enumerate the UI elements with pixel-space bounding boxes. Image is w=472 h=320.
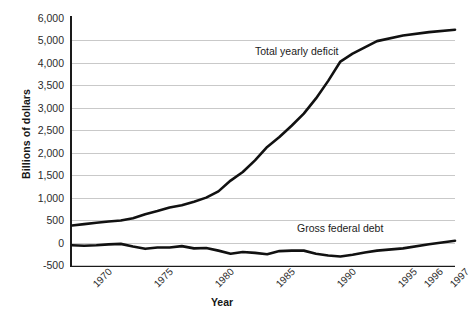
x-axis-tick-label: 1975 (152, 266, 176, 290)
series-line-total-yearly-deficit (72, 30, 455, 226)
y-axis-tick-labels: 6,0005,0004,0003,5003,0002,5002,0001,500… (6, 0, 64, 320)
x-axis-tick-label: 1995 (396, 266, 420, 290)
x-axis-tick-label: 1970 (91, 266, 115, 290)
series-label-total-yearly-deficit: Total yearly deficit (255, 45, 338, 57)
x-axis-title: Year (0, 296, 472, 308)
x-axis-tick-label: 1985 (274, 266, 298, 290)
x-axis-tick-label: 1990 (335, 266, 359, 290)
x-axis-tick-labels: 197019751980198519901995199619971998 (72, 266, 472, 320)
y-axis-tick-label: 3,500 (6, 79, 64, 91)
x-axis-title-text: Year (211, 296, 233, 308)
y-axis-tick-label: 500 (6, 214, 64, 226)
series-line-gross-federal-debt (72, 241, 455, 257)
y-axis-tick-label: 5,000 (6, 34, 64, 46)
y-axis-tick-label: 6,000 (6, 12, 64, 24)
x-axis-tick-label: 1980 (213, 266, 237, 290)
y-axis-tick-label: 3,000 (6, 102, 64, 114)
y-axis-tick-label: 2,000 (6, 147, 64, 159)
y-axis-tick-label: 0 (6, 237, 64, 249)
y-axis-tick-label: 1,000 (6, 192, 64, 204)
y-axis-tick-label: 2,500 (6, 124, 64, 136)
series-label-gross-federal-debt: Gross federal debt (297, 222, 383, 234)
chart-container: Billions of dollars 6,0005,0004,0003,500… (0, 0, 472, 320)
x-axis-tick-label: 1996 (422, 266, 446, 290)
y-axis-tick-label: 4,000 (6, 57, 64, 69)
y-axis-tick-label: 1,500 (6, 169, 64, 181)
y-axis-tick-label: -500 (6, 259, 64, 271)
x-axis-tick-label: 1997 (448, 266, 472, 290)
plot-area: Total yearly deficit Gross federal debt (72, 18, 455, 265)
